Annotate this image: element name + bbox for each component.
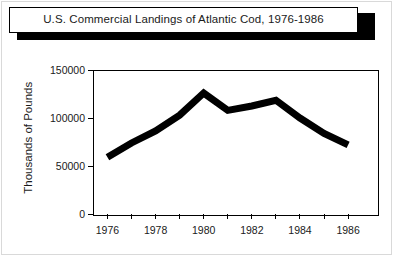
x-axis-tick-labels: 197619781980198219841986: [0, 0, 395, 258]
chart-figure: U.S. Commercial Landings of Atlantic Cod…: [0, 0, 395, 258]
x-tick-label: 1986: [336, 225, 359, 236]
x-tick-label: 1980: [192, 225, 215, 236]
x-tick-label: 1984: [288, 225, 311, 236]
x-tick-label: 1982: [240, 225, 263, 236]
x-tick-label: 1978: [144, 225, 167, 236]
x-tick-label: 1976: [96, 225, 119, 236]
